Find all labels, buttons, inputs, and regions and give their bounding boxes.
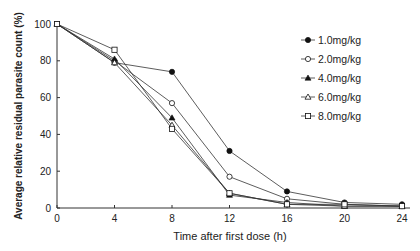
legend-label: 4.0mg/kg (318, 72, 361, 84)
legend-item: 2.0mg/kg (301, 53, 361, 65)
legend-label: 2.0mg/kg (318, 53, 361, 65)
open-circle-legend-icon (305, 56, 310, 61)
open-circle-marker-icon (227, 174, 232, 179)
y-axis-title: Average relative residual parasite count… (13, 12, 24, 220)
y-tick-label: 0 (45, 203, 51, 214)
legend-item: 4.0mg/kg (301, 72, 361, 84)
legend-item: 1.0mg/kg (301, 34, 361, 46)
open-square-marker-icon (54, 21, 59, 26)
y-tick-label: 60 (40, 92, 52, 103)
x-tick-label: 24 (396, 213, 408, 224)
open-circle-marker-icon (169, 101, 174, 106)
open-square-marker-icon (284, 202, 289, 207)
y-tick-label: 40 (40, 129, 52, 140)
open-square-marker-icon (399, 204, 404, 209)
x-tick-label: 16 (281, 213, 293, 224)
y-tick-label: 20 (40, 166, 52, 177)
x-tick-label: 8 (169, 213, 175, 224)
legend-label: 1.0mg/kg (318, 34, 361, 46)
legend: 1.0mg/kg2.0mg/kg4.0mg/kg6.0mg/kg8.0mg/kg (301, 34, 361, 122)
legend-label: 8.0mg/kg (318, 110, 361, 122)
legend-item: 8.0mg/kg (301, 110, 361, 122)
x-tick-label: 4 (112, 213, 118, 224)
open-square-marker-icon (112, 47, 117, 52)
line-chart: 04812162024020406080100 1.0mg/kg2.0mg/kg… (0, 0, 420, 251)
open-square-marker-icon (169, 126, 174, 131)
x-axis-title: Time after first dose (h) (173, 230, 286, 242)
x-tick-label: 12 (224, 213, 236, 224)
x-tick-label: 20 (339, 213, 351, 224)
y-tick-label: 100 (34, 19, 51, 30)
filled-circle-legend-icon (305, 37, 310, 42)
filled-circle-marker-icon (169, 69, 174, 74)
open-square-legend-icon (305, 113, 310, 118)
y-tick-label: 80 (40, 55, 52, 66)
legend-label: 6.0mg/kg (318, 91, 361, 103)
legend-item: 6.0mg/kg (301, 91, 361, 103)
open-square-marker-icon (227, 191, 232, 196)
x-tick-label: 0 (54, 213, 60, 224)
open-square-marker-icon (342, 202, 347, 207)
filled-circle-marker-icon (284, 189, 289, 194)
filled-circle-marker-icon (227, 148, 232, 153)
